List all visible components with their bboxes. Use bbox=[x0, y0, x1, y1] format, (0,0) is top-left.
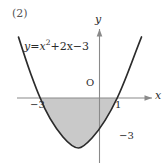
axis-label-x: x bbox=[155, 90, 161, 101]
equation-label: y=x2+2x−3 bbox=[24, 41, 89, 52]
problem-number: (2) bbox=[12, 8, 28, 19]
shaded-region bbox=[40, 98, 117, 148]
tick-label-right-root: 1 bbox=[115, 100, 121, 110]
origin-label: O bbox=[86, 78, 94, 88]
axis-label-y: y bbox=[95, 14, 101, 25]
tick-label-left-root: −3 bbox=[30, 100, 45, 110]
y-axis-arrowhead bbox=[97, 29, 103, 37]
x-axis-arrowhead bbox=[145, 95, 153, 101]
tick-label-y-intercept: −3 bbox=[119, 131, 134, 141]
equation-rest: +2x−3 bbox=[50, 40, 89, 53]
figure-container: (2) y=x2+2x−3 y x O −3 1 −3 bbox=[0, 0, 167, 168]
parabola-plot bbox=[0, 0, 167, 168]
